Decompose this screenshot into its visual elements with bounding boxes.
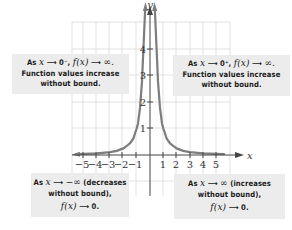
text: 0. [241, 203, 249, 212]
arrow-icon: ⟶ [51, 178, 66, 187]
x-axis-label: x [247, 150, 253, 161]
callout-top-left: As x ⟶ 0⁻, f(x) ⟶ ∞. Function values inc… [12, 54, 129, 94]
x-tick-label: −1 [128, 159, 143, 170]
x-tick-labels: −5 −4 −3 −2 −1 1 2 3 4 5 [75, 159, 220, 170]
callout-line: As x ⟶ 0⁻, f(x) ⟶ ∞. [14, 57, 127, 69]
x-tick-label: 2 [173, 159, 179, 170]
math-fx: f(x) [61, 201, 77, 211]
x-axis-arrow-icon [235, 152, 244, 158]
callout-top-right: As x ⟶ 0⁺, f(x) ⟶ ∞. Function values inc… [173, 55, 290, 96]
math-infinity: ∞ [220, 178, 228, 188]
x-tick-label: 3 [187, 159, 193, 170]
math-infinity: ∞. [264, 58, 275, 68]
y-tick-label: 3 [140, 70, 146, 81]
arrow-icon: ⟶ [44, 58, 59, 67]
callout-bottom-left: As x ⟶ −∞ (decreases without bound), f(x… [31, 173, 129, 217]
text: As [188, 179, 200, 188]
text: As [34, 178, 46, 187]
arrow-icon: ⟶ [205, 179, 220, 188]
callout-line: f(x) ⟶ 0. [33, 201, 127, 213]
y-tick-label: 4 [140, 44, 146, 55]
curve-arrow-left-end-icon [72, 152, 80, 157]
x-tick-label: 5 [213, 159, 219, 170]
text: (decreases [81, 178, 127, 187]
math-infinity: −∞ [66, 177, 81, 187]
callout-line: without bound), [33, 189, 127, 200]
arrow-icon: ⟶ [77, 202, 92, 211]
arrow-icon: ⟶ [89, 58, 104, 67]
math-infinity: ∞. [103, 57, 114, 67]
arrow-icon: ⟶ [226, 203, 241, 212]
math-fx: f(x) [234, 58, 250, 68]
x-tick-label: 4 [200, 159, 206, 170]
y-tick-label: 1 [140, 123, 146, 134]
callout-line: f(x) ⟶ 0. [176, 202, 283, 214]
x-tick-label: 1 [160, 159, 166, 170]
arrow-icon: ⟶ [205, 59, 220, 68]
callout-line: As x ⟶ 0⁺, f(x) ⟶ ∞. [175, 58, 288, 70]
callout-line: Function values increase [14, 69, 127, 80]
text: As [188, 59, 200, 68]
curve-arrow-right-icon [152, 2, 157, 11]
y-axis-label: y [146, 0, 153, 10]
callout-line: Function values increase [175, 70, 288, 81]
x-tick-label: −2 [114, 159, 129, 170]
math-fx: f(x) [210, 202, 226, 212]
text: 0⁺ [220, 59, 229, 68]
callout-line: without bound. [14, 79, 127, 90]
callout-line: without bound), [176, 190, 283, 201]
text: (increases [228, 179, 271, 188]
callout-line: As x ⟶ −∞ (decreases [33, 177, 127, 189]
callout-line: As x ⟶ ∞ (increases [176, 178, 283, 190]
text: 0. [92, 202, 100, 211]
arrow-icon: ⟶ [250, 59, 265, 68]
callout-bottom-right: As x ⟶ ∞ (increases without bound), f(x)… [174, 174, 285, 219]
math-fx: f(x) [73, 57, 89, 67]
y-tick-label: 2 [140, 97, 146, 108]
callout-line: without bound. [175, 80, 288, 91]
text: As [27, 58, 39, 67]
text: 0⁻ [59, 58, 68, 67]
